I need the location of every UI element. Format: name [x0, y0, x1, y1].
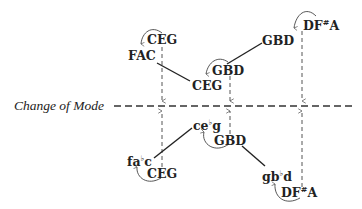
chord-gbflatd-end: d	[283, 169, 292, 184]
chord-gbd-upper-mid: GBD	[212, 63, 244, 78]
chord-gbd-lower: GBD	[214, 133, 246, 148]
chord-dfsharpa-main: DF	[303, 18, 323, 33]
chord-gbflatd: gb♭d	[262, 168, 292, 184]
edge-gbd-gbflatd	[242, 146, 265, 166]
chord-ceflatg-main: ce	[193, 118, 209, 133]
chord-ceflatg: ce♭g	[193, 117, 221, 133]
change-of-mode-label: Change of Mode	[14, 98, 104, 113]
mode-change-diagram: Change of Mode CEG FAC CEG GBD GBD DF#A …	[0, 0, 362, 209]
chord-dfsharpa-lower: DF#A	[281, 184, 317, 200]
edge-faflatc-ceflatg	[154, 128, 192, 158]
chord-ceflatg-end: g	[212, 118, 221, 133]
chord-dfsharpa-end: A	[306, 185, 317, 200]
chord-faflatc-main: fa	[127, 154, 140, 169]
edge-gbd-gbd	[227, 43, 262, 64]
chord-fac: FAC	[128, 48, 156, 63]
chord-ceg-upper-left: CEG	[147, 32, 177, 47]
chord-dfsharpa-upper: DF#A	[303, 17, 339, 33]
chord-ceg-lower: CEG	[147, 166, 177, 181]
chord-ceg-upper-center: CEG	[192, 78, 222, 93]
chord-gbd-upper-top: GBD	[262, 33, 294, 48]
chord-gbflatd-main: gb	[262, 169, 280, 184]
chord-dfsharpa-end: A	[328, 18, 339, 33]
chord-dfsharpa-main: DF	[281, 185, 301, 200]
